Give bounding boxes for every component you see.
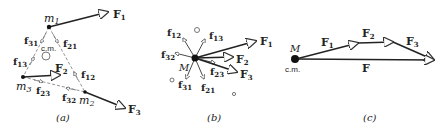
ghost-mass	[195, 28, 200, 33]
label-f13-b: f13	[209, 30, 223, 43]
label-F2-b: F2	[236, 53, 249, 67]
cm-label-c: c.m.	[285, 65, 300, 74]
cm-label-a: c.m.	[41, 44, 56, 53]
label-F2-c: F2	[362, 27, 375, 41]
label-f32-b: f32	[161, 49, 175, 62]
label-f21-a: f21	[63, 38, 77, 51]
label-f31-a: f31	[24, 35, 38, 48]
F2-arrow-c	[358, 42, 393, 43]
label-f31-b: f31	[178, 79, 192, 92]
panel-b: M F1 F2 F3 f12 f13 f32 f23 f31 f21 (b)	[161, 27, 273, 123]
label-F3-b: F3	[240, 68, 253, 82]
mass-M-c	[291, 55, 299, 63]
mass-triangle	[23, 27, 85, 92]
F-resultant-arrow	[296, 59, 434, 60]
label-f13-a: f13	[13, 56, 27, 69]
label-m3: m3	[16, 80, 32, 94]
F2-arrow-b	[195, 57, 233, 58]
label-F1-c: F1	[321, 36, 334, 50]
label-f21-b: f21	[201, 82, 215, 95]
f23-arrow	[34, 80, 43, 82]
ghost-mass	[170, 78, 174, 82]
f31-arrow	[41, 33, 46, 43]
label-M-b: M	[178, 62, 190, 73]
caption-a: (a)	[56, 112, 70, 123]
panel-c: M c.m. F1 F2 F3 F (c)	[285, 27, 434, 123]
label-F-c: F	[362, 62, 370, 75]
label-f12-b: f12	[167, 27, 181, 40]
force-diagram: c.m. m1 m3 m2 F1 F2 F3 f31 f21 f13 f12 f…	[0, 0, 444, 131]
mass-m3	[21, 75, 25, 79]
caption-c: (c)	[363, 112, 377, 123]
f32-arrow	[66, 88, 76, 90]
caption-b: (b)	[207, 112, 221, 123]
f21-arrow	[53, 34, 58, 43]
label-M-c: M	[289, 43, 301, 54]
label-F1-b: F1	[260, 35, 273, 49]
mass-m1	[47, 25, 51, 29]
F2-arrow	[23, 75, 60, 77]
label-m1: m1	[44, 12, 60, 26]
label-f23-a: f23	[36, 85, 50, 98]
label-f23-b: f23	[210, 66, 224, 79]
f13-arrow	[30, 57, 34, 65]
panel-a: c.m. m1 m3 m2 F1 F2 F3 f31 f21 f13 f12 f…	[13, 8, 141, 123]
f12-arrow	[74, 72, 78, 80]
ghost-mass	[232, 92, 235, 95]
label-F3-a: F3	[128, 103, 141, 117]
label-f12-a: f12	[81, 69, 95, 82]
label-f32-a: f32	[62, 92, 76, 105]
label-F2-a: F2	[55, 62, 68, 76]
label-F3-c: F3	[406, 35, 419, 49]
F1-arrow-b	[195, 41, 256, 58]
label-m2: m2	[79, 94, 95, 108]
label-F1-a: F1	[113, 8, 126, 22]
mass-M-b	[192, 55, 199, 62]
center-of-mass-marker	[42, 52, 50, 60]
